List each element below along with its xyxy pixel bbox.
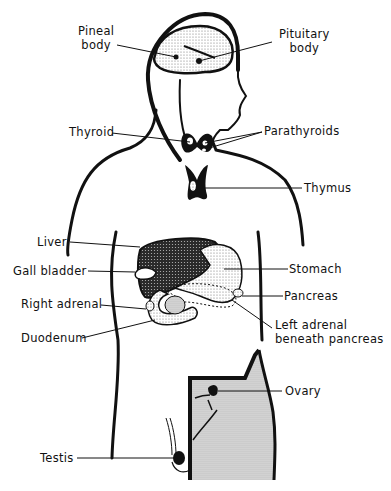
testis: [166, 418, 190, 472]
thymus-gland: [185, 165, 208, 200]
label-thyroid: Thyroid: [69, 125, 114, 139]
label-testis: Testis: [40, 451, 74, 465]
label-pituitary-body: Pituitarybody: [279, 27, 330, 55]
label-duodenum: Duodenum: [21, 331, 87, 345]
label-gall-bladder: Gall bladder: [13, 264, 87, 278]
thyroid-gland: [181, 133, 213, 152]
label-liver: Liver: [37, 235, 67, 249]
label-left-adrenal: Left adrenalbeneath pancreas: [275, 318, 384, 346]
label-pancreas: Pancreas: [284, 289, 338, 303]
label-right-adrenal: Right adrenal: [21, 297, 102, 311]
left-adrenal-gland: [233, 289, 243, 297]
female-inset: [190, 350, 275, 480]
label-ovary: Ovary: [285, 384, 321, 398]
label-parathyroids: Parathyroids: [264, 124, 339, 138]
gall-bladder: [135, 268, 156, 279]
right-adrenal-gland: [146, 301, 154, 311]
label-stomach: Stomach: [289, 262, 342, 276]
label-pineal-body: Pinealbody: [78, 24, 114, 52]
label-thymus: Thymus: [304, 181, 351, 195]
